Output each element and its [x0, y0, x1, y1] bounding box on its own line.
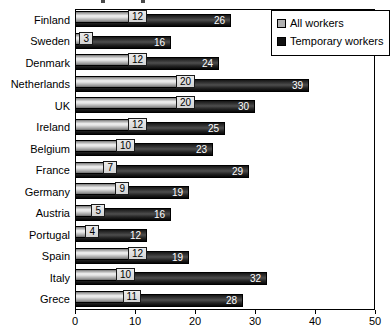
bar-row: Austria165: [0, 203, 391, 225]
bar-value-label: 12: [128, 10, 147, 23]
x-axis-tick: [195, 310, 196, 314]
bar-all-workers: 10: [75, 140, 135, 152]
bar-value-label: 32: [250, 273, 266, 284]
bar-value-label: 20: [176, 75, 195, 88]
bar-value-label: 11: [123, 290, 141, 303]
legend: All workers Temporary workers: [271, 10, 390, 56]
x-axis-tick-label: 0: [63, 315, 87, 327]
category-label: UK: [0, 95, 70, 117]
bar-all-workers: 12: [75, 248, 147, 260]
bar-row: Netherlands3920: [0, 74, 391, 96]
bar-all-workers: 12: [75, 11, 147, 23]
category-label: Austria: [0, 203, 70, 225]
bar-value-label: 10: [116, 268, 135, 281]
x-axis-tick: [135, 310, 136, 314]
bar-value-label: 25: [208, 123, 224, 134]
bar-value-label: 12: [130, 230, 146, 241]
bar-all-workers: 12: [75, 119, 147, 131]
category-label: Netherlands: [0, 74, 70, 96]
bar-chart: Finland2612Sweden163Denmark2412Netherlan…: [0, 0, 391, 335]
category-label: Ireland: [0, 117, 70, 139]
x-axis-tick-label: 50: [363, 315, 387, 327]
category-label: Spain: [0, 246, 70, 268]
bar-value-label: 7: [103, 161, 117, 174]
x-axis-tick-label: 30: [243, 315, 267, 327]
x-axis-tick-label: 40: [303, 315, 327, 327]
x-axis-tick: [75, 310, 76, 314]
legend-item-all-workers: All workers: [277, 17, 389, 29]
bar-all-workers: 12: [75, 54, 147, 66]
bar-value-label: 12: [128, 118, 147, 131]
category-label: Italy: [0, 267, 70, 289]
bar-value-label: 5: [91, 204, 105, 217]
bar-row: Italy3210: [0, 267, 391, 289]
cropped-title-remnant: [101, 0, 105, 3]
bar-value-label: 23: [196, 144, 212, 155]
bar-value-label: 28: [226, 295, 242, 306]
bar-value-label: 3: [79, 32, 93, 45]
bar-value-label: 10: [116, 139, 135, 152]
bar-all-workers: 11: [75, 291, 141, 303]
bar-value-label: 29: [232, 166, 248, 177]
all-workers-swatch-icon: [277, 19, 286, 28]
bar-row: Grece2811: [0, 289, 391, 311]
bar-value-label: 4: [85, 225, 99, 238]
bar-row: Spain1912: [0, 246, 391, 268]
legend-label: Temporary workers: [290, 35, 384, 47]
category-label: Germany: [0, 181, 70, 203]
category-label: Denmark: [0, 52, 70, 74]
x-axis-tick-label: 10: [123, 315, 147, 327]
bar-row: UK3020: [0, 95, 391, 117]
x-axis-tick: [375, 310, 376, 314]
bar-row: Portugal124: [0, 224, 391, 246]
bar-value-label: 16: [154, 209, 170, 220]
bar-value-label: 9: [115, 182, 129, 195]
x-axis-tick: [255, 310, 256, 314]
x-axis-tick: [315, 310, 316, 314]
bar-all-workers: 7: [75, 162, 117, 174]
bar-all-workers: 20: [75, 76, 195, 88]
x-axis-tick-label: 20: [183, 315, 207, 327]
bar-row: France297: [0, 160, 391, 182]
bar-value-label: 12: [128, 53, 147, 66]
bar-value-label: 19: [172, 187, 188, 198]
category-label: Grece: [0, 289, 70, 311]
category-label: Finland: [0, 9, 70, 31]
bar-all-workers: 4: [75, 226, 99, 238]
bar-all-workers: 20: [75, 97, 195, 109]
bar-row: Germany199: [0, 181, 391, 203]
bar-value-label: 30: [238, 101, 254, 112]
bar-value-label: 20: [176, 96, 195, 109]
category-label: Belgium: [0, 138, 70, 160]
category-label: Portugal: [0, 224, 70, 246]
cropped-title-remnant: [141, 0, 145, 3]
bar-value-label: 24: [202, 58, 218, 69]
legend-label: All workers: [290, 17, 344, 29]
bar-row: Belgium2310: [0, 138, 391, 160]
bar-value-label: 12: [128, 247, 147, 260]
bar-value-label: 19: [172, 252, 188, 263]
bar-all-workers: 5: [75, 205, 105, 217]
category-label: Sweden: [0, 31, 70, 53]
bar-value-label: 16: [154, 37, 170, 48]
temporary-workers-swatch-icon: [277, 37, 286, 46]
bar-all-workers: 10: [75, 269, 135, 281]
bar-all-workers: 9: [75, 183, 129, 195]
category-label: France: [0, 160, 70, 182]
bar-value-label: 26: [214, 15, 230, 26]
legend-item-temporary-workers: Temporary workers: [277, 35, 389, 47]
bar-row: Ireland2512: [0, 117, 391, 139]
bar-value-label: 39: [292, 80, 308, 91]
bar-all-workers: 3: [75, 33, 93, 45]
